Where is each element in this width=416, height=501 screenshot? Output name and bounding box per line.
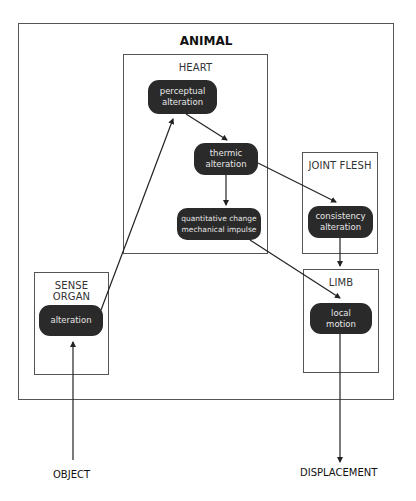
joint-flesh-box: JOINT FLESH [302, 152, 378, 254]
node-perceptual-alteration: perceptual alteration [148, 80, 217, 114]
node-consistency-line2: alteration [320, 222, 361, 233]
joint-flesh-label: JOINT FLESH [303, 160, 377, 171]
animal-title: ANIMAL [19, 34, 393, 48]
node-thermic-alteration: thermic alteration [194, 143, 258, 175]
node-thermic-line2: alteration [205, 159, 246, 170]
node-thermic-line1: thermic [210, 148, 243, 159]
node-local-motion-line2: motion [326, 319, 356, 330]
node-quantitative-line2: mechanical impulse [182, 224, 257, 235]
diagram-canvas: ANIMAL HEART JOINT FLESH LIMB SENSE ORGA… [0, 0, 416, 501]
node-consistency-line1: consistency [315, 211, 365, 222]
limb-label: LIMB [304, 277, 378, 288]
node-sense-alteration: alteration [39, 305, 103, 336]
heart-label: HEART [124, 62, 267, 73]
node-quantitative-change: quantitative change mechanical impulse [177, 208, 261, 240]
node-consistency-alteration: consistency alteration [308, 206, 373, 238]
object-label: OBJECT [53, 469, 90, 480]
node-perceptual-line2: alteration [162, 97, 203, 108]
node-perceptual-line1: perceptual [160, 86, 206, 97]
node-local-motion-line1: local [331, 308, 351, 319]
node-quantitative-line1: quantitative change [181, 213, 257, 224]
node-sense-alteration-line1: alteration [50, 315, 91, 326]
sense-organ-label: SENSE ORGAN [35, 280, 108, 302]
node-local-motion: local motion [310, 303, 372, 334]
displacement-label: DISPLACEMENT [300, 467, 377, 478]
